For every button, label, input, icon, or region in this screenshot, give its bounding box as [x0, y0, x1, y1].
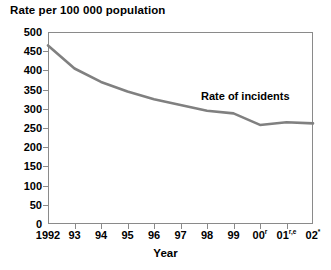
y-axis-tick-label: 300 — [24, 103, 42, 114]
y-axis-tick — [43, 186, 48, 187]
y-axis-tick-label: 400 — [24, 65, 42, 76]
x-axis-title: Year — [0, 247, 331, 259]
chart-title: Rate per 100 000 population — [10, 4, 165, 16]
x-axis-tick-label: 95 — [121, 230, 133, 241]
x-axis-labels: 19929394959697989900r01r,e02* — [0, 230, 331, 246]
x-axis-tick — [128, 224, 129, 229]
x-axis-tick — [101, 224, 102, 229]
y-axis-tick — [43, 166, 48, 167]
x-axis-tick — [287, 224, 288, 229]
x-axis-tick-label: 1992 — [36, 230, 60, 241]
x-axis-tick-label: 99 — [227, 230, 239, 241]
x-axis-tick — [154, 224, 155, 229]
y-axis-tick — [43, 128, 48, 129]
y-axis-tick-label: 150 — [24, 161, 42, 172]
series-rate-of-incidents — [48, 32, 313, 224]
x-axis-tick — [181, 224, 182, 229]
x-axis-tick-label: 00r — [253, 230, 268, 241]
x-axis-tick — [75, 224, 76, 229]
y-axis-tick-label: 50 — [30, 199, 42, 210]
x-axis-tick — [260, 224, 261, 229]
y-axis-tick-label: 350 — [24, 84, 42, 95]
y-axis-tick — [43, 147, 48, 148]
y-axis-tick — [43, 51, 48, 52]
y-axis-tick-label: 100 — [24, 180, 42, 191]
y-axis-tick-label: 250 — [24, 123, 42, 134]
line-chart: Rate per 100 000 population 050100150200… — [0, 0, 331, 270]
y-axis-tick-label: 500 — [24, 27, 42, 38]
y-axis-tick — [43, 70, 48, 71]
x-axis-tick-label: 96 — [148, 230, 160, 241]
x-axis-tick — [234, 224, 235, 229]
x-axis-tick-label: 93 — [68, 230, 80, 241]
x-axis-tick-label: 02* — [306, 230, 321, 241]
y-axis-tick-label: 450 — [24, 46, 42, 57]
y-axis-tick-label: 0 — [36, 219, 42, 230]
x-axis-tick-label: 98 — [201, 230, 213, 241]
y-axis-tick — [43, 205, 48, 206]
line-path-rate-of-incidents — [48, 45, 313, 124]
y-axis-tick-label: 200 — [24, 142, 42, 153]
y-axis-labels: 050100150200250300350400450500 — [0, 32, 42, 224]
x-axis-tick — [207, 224, 208, 229]
series-annotation-rate-of-incidents: Rate of incidents — [201, 90, 290, 102]
x-axis-tick-label: 97 — [174, 230, 186, 241]
y-axis-tick — [43, 90, 48, 91]
y-axis-tick — [43, 109, 48, 110]
x-axis-tick-label: 01r,e — [277, 230, 297, 241]
x-axis-tick-label: 94 — [95, 230, 107, 241]
